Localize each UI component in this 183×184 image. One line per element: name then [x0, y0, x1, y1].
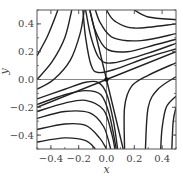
trajectory-curve [37, 10, 84, 89]
trajectory-curve [134, 10, 176, 20]
x-tick-label: 0.2 [126, 153, 142, 164]
y-tick-label: 0.2 [18, 46, 34, 57]
trajectory-curve [37, 124, 107, 149]
phase-portrait-chart: −0.4−0.20.00.20.4 −0.4−0.20.00.20.4 x y [0, 0, 183, 184]
trajectory-curve [124, 63, 176, 149]
trajectory-curve [37, 111, 111, 149]
y-axis-label: y [0, 68, 11, 76]
y-tick-label: −0.2 [10, 102, 34, 113]
y-tick-label: −0.4 [10, 130, 34, 141]
x-axis-label: x [103, 163, 110, 176]
x-tick-label: 0.4 [154, 153, 170, 164]
x-tick-label: −0.2 [67, 153, 91, 164]
x-tick-label: −0.4 [39, 153, 63, 164]
saddle-point-marker [104, 77, 108, 81]
trajectory-curve [37, 138, 95, 149]
y-tick-label: 0.4 [18, 18, 34, 29]
trajectory-curve [172, 107, 176, 149]
trajectory-curve [90, 10, 176, 52]
trajectory-curve [37, 10, 58, 56]
y-tick-label: 0.0 [18, 74, 34, 85]
